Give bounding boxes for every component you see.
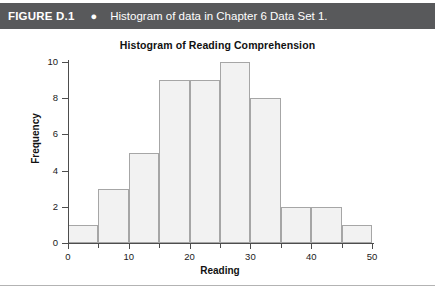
x-axis-title: Reading — [68, 265, 372, 276]
y-axis-title: Frequency — [30, 89, 41, 189]
histogram-bar — [342, 225, 372, 243]
figure-caption-header: FIGURE D.1 ● Histogram of data in Chapte… — [0, 3, 435, 29]
x-axis-tick — [129, 243, 130, 249]
footer-divider — [0, 285, 435, 286]
x-axis-tick — [250, 243, 251, 249]
y-axis-line — [68, 60, 69, 244]
x-axis-tick — [372, 243, 373, 249]
x-axis-tick — [311, 243, 312, 249]
x-axis-tick-label: 0 — [48, 251, 88, 262]
histogram-bar — [311, 207, 341, 243]
histogram-bar — [129, 153, 159, 244]
histogram-figure: Histogram of Reading Comprehension 02468… — [0, 29, 435, 277]
x-axis-tick-label: 10 — [109, 251, 149, 262]
histogram-bar — [190, 80, 220, 243]
x-axis-tick — [98, 243, 99, 248]
histogram-bar — [281, 207, 311, 243]
histogram-bars — [68, 62, 372, 243]
x-axis-tick-label: 50 — [352, 251, 392, 262]
x-axis-tick — [220, 243, 221, 248]
y-axis-tick-label: 10 — [18, 56, 58, 67]
x-axis-tick — [159, 243, 160, 248]
histogram-bar — [68, 225, 98, 243]
y-axis-tick-label: 2 — [18, 201, 58, 212]
y-axis-tick — [62, 98, 68, 99]
x-axis-tick — [281, 243, 282, 248]
x-axis-tick — [190, 243, 191, 249]
y-axis-tick-label: 0 — [18, 237, 58, 248]
x-axis-tick-label: 40 — [291, 251, 331, 262]
histogram-bar — [159, 80, 189, 243]
x-axis-tick — [342, 243, 343, 248]
y-axis-tick — [62, 171, 68, 172]
figure-caption-text: Histogram of data in Chapter 6 Data Set … — [110, 10, 327, 22]
plot-area — [68, 62, 372, 243]
chart-title: Histogram of Reading Comprehension — [0, 39, 435, 51]
y-axis-tick — [62, 207, 68, 208]
x-axis-tick-label: 20 — [170, 251, 210, 262]
figure-number: FIGURE D.1 — [8, 10, 75, 22]
y-axis-tick — [62, 62, 68, 63]
bullet-separator-icon: ● — [91, 11, 98, 22]
x-axis-tick — [68, 243, 69, 249]
x-axis-tick-label: 30 — [230, 251, 270, 262]
histogram-bar — [220, 62, 250, 243]
histogram-bar — [98, 189, 128, 243]
y-axis-tick — [62, 134, 68, 135]
histogram-bar — [250, 98, 280, 243]
